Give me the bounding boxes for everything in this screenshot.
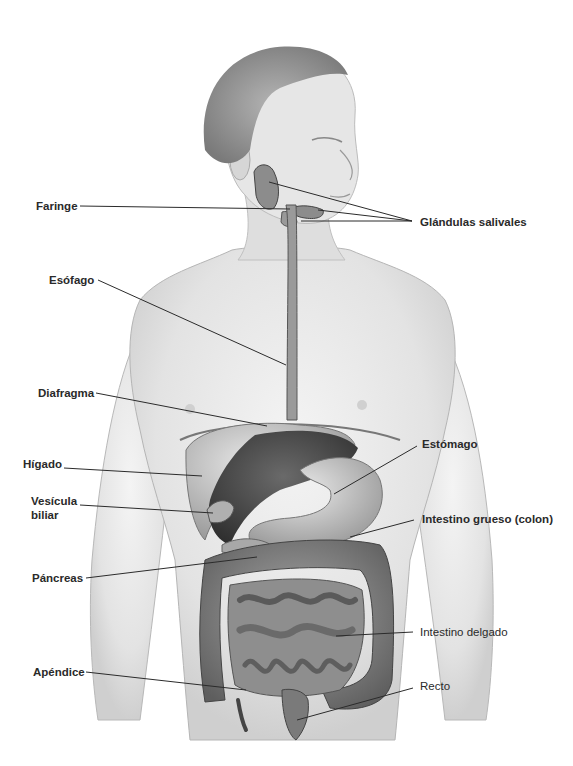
label-recto: Recto bbox=[420, 679, 450, 693]
label-diafragma: Diafragma bbox=[38, 386, 94, 400]
label-biliar: biliar bbox=[31, 508, 58, 522]
label-intestino-grueso: Intestino grueso (colon) bbox=[422, 512, 553, 526]
label-esofago: Esófago bbox=[49, 273, 94, 287]
digestive-system-illustration bbox=[0, 0, 573, 766]
label-estomago: Estómago bbox=[422, 437, 478, 451]
label-glandulas-salivales: Glándulas salivales bbox=[420, 215, 527, 229]
label-faringe: Faringe bbox=[36, 199, 78, 213]
label-higado: Hígado bbox=[23, 457, 62, 471]
label-intestino-delgado: Intestino delgado bbox=[420, 625, 508, 639]
label-vesicula: Vesícula bbox=[31, 494, 77, 508]
label-apendice: Apéndice bbox=[33, 665, 85, 679]
label-pancreas: Páncreas bbox=[32, 571, 83, 585]
